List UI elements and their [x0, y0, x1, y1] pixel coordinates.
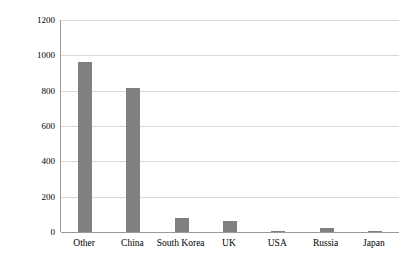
y-tick-label: 800 — [3, 86, 55, 96]
bar[interactable] — [78, 62, 92, 232]
x-tick-label: South Korea — [157, 236, 205, 254]
bars-layer — [61, 20, 399, 232]
y-tick-label: 400 — [3, 156, 55, 166]
bar-slot — [206, 20, 254, 232]
bar-slot — [351, 20, 399, 232]
bar[interactable] — [126, 88, 140, 233]
bar-slot — [254, 20, 302, 232]
y-tick-label: 0 — [3, 227, 55, 237]
bar[interactable] — [271, 231, 285, 232]
bar[interactable] — [368, 231, 382, 232]
y-tick-label: 600 — [3, 121, 55, 131]
x-tick-label: Other — [60, 236, 108, 254]
bar[interactable] — [320, 228, 334, 232]
y-tick-label: 1000 — [3, 50, 55, 60]
x-tick-label: China — [108, 236, 156, 254]
bar[interactable] — [175, 218, 189, 232]
y-tick-label: 200 — [3, 192, 55, 202]
y-tick-label: 1200 — [3, 15, 55, 25]
bar[interactable] — [223, 221, 237, 232]
bar-slot — [302, 20, 350, 232]
x-tick-label: USA — [253, 236, 301, 254]
x-tick-label: UK — [205, 236, 253, 254]
axis-baseline — [61, 232, 399, 233]
y-axis-tick-labels: 1200 1000 800 600 400 200 0 — [0, 20, 55, 232]
plot-area — [60, 20, 399, 232]
x-tick-label: Russia — [301, 236, 349, 254]
bar-chart: x 1000 1200 1000 800 600 400 200 0 Other… — [0, 0, 407, 264]
bar-slot — [109, 20, 157, 232]
bar-slot — [61, 20, 109, 232]
x-axis-tick-labels: OtherChinaSouth KoreaUKUSARussiaJapan — [60, 236, 398, 254]
bar-slot — [158, 20, 206, 232]
x-tick-label: Japan — [350, 236, 398, 254]
